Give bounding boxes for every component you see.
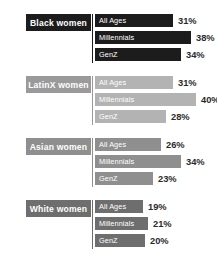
bar-row: All Ages31%: [95, 14, 217, 27]
group-connector-line: [92, 14, 93, 63]
group-label: Asian women: [26, 138, 91, 155]
bar: Millennials: [95, 217, 148, 230]
bar: All Ages: [95, 138, 161, 151]
bar-list: All Ages31%Millennials38%GenZ34%: [95, 14, 217, 65]
bar-value-label: 19%: [148, 200, 167, 213]
bar: GenZ: [95, 48, 181, 61]
bar-series-label: All Ages: [99, 140, 126, 149]
group-label: Black women: [26, 14, 91, 31]
bar-row: All Ages19%: [95, 200, 217, 213]
bar-value-label: 20%: [150, 234, 169, 247]
group-connector-line: [92, 138, 93, 187]
bar-series-label: Millennials: [99, 95, 134, 104]
bar-row: All Ages31%: [95, 76, 217, 89]
bar-row: GenZ28%: [95, 110, 217, 123]
bar: Millennials: [95, 93, 196, 106]
bar-series-label: All Ages: [99, 202, 126, 211]
bar: All Ages: [95, 14, 173, 27]
group-label: White women: [26, 200, 91, 217]
bar: GenZ: [95, 110, 166, 123]
group-label: LatinX women: [26, 76, 91, 93]
bar-series-label: All Ages: [99, 78, 126, 87]
bar-series-label: GenZ: [99, 50, 118, 59]
bar-series-label: GenZ: [99, 112, 118, 121]
bar-row: Millennials21%: [95, 217, 217, 230]
bar: Millennials: [95, 155, 181, 168]
bar: All Ages: [95, 200, 143, 213]
bar-list: All Ages26%Millennials34%GenZ23%: [95, 138, 217, 189]
bar-row: Millennials38%: [95, 31, 217, 44]
bar-row: All Ages26%: [95, 138, 217, 151]
bar-value-label: 34%: [186, 155, 205, 168]
bar: GenZ: [95, 172, 153, 185]
bar-series-label: GenZ: [99, 174, 118, 183]
bar-row: GenZ34%: [95, 48, 217, 61]
bar: Millennials: [95, 31, 191, 44]
bar: GenZ: [95, 234, 145, 247]
bar-value-label: 34%: [186, 48, 205, 61]
bar-value-label: 23%: [158, 172, 177, 185]
bar-list: All Ages31%Millennials40%GenZ28%: [95, 76, 217, 127]
bar-value-label: 38%: [196, 31, 215, 44]
bar-series-label: Millennials: [99, 157, 134, 166]
bar-row: GenZ23%: [95, 172, 217, 185]
bar-list: All Ages19%Millennials21%GenZ20%: [95, 200, 217, 251]
bar-row: Millennials34%: [95, 155, 217, 168]
bar-series-label: GenZ: [99, 236, 118, 245]
bar-value-label: 21%: [153, 217, 172, 230]
group-connector-line: [92, 76, 93, 125]
bar-value-label: 26%: [166, 138, 185, 151]
grouped-bar-chart: Black womenAll Ages31%Millennials38%GenZ…: [0, 0, 217, 264]
bar-series-label: Millennials: [99, 219, 134, 228]
bar-series-label: All Ages: [99, 16, 126, 25]
group-connector-line: [92, 200, 93, 249]
bar-value-label: 40%: [201, 93, 217, 106]
bar-row: GenZ20%: [95, 234, 217, 247]
bar-value-label: 31%: [178, 76, 197, 89]
bar-value-label: 28%: [171, 110, 190, 123]
bar: All Ages: [95, 76, 173, 89]
bar-row: Millennials40%: [95, 93, 217, 106]
bar-value-label: 31%: [178, 14, 197, 27]
bar-series-label: Millennials: [99, 33, 134, 42]
